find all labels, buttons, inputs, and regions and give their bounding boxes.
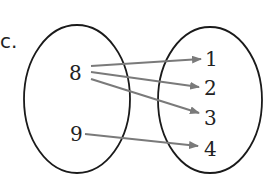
range-element-3: 3 <box>204 106 217 130</box>
arrow-8-to-1 <box>91 59 201 66</box>
part-label: c. <box>0 29 17 53</box>
domain-ellipse <box>24 25 130 173</box>
range-element-4: 4 <box>204 137 217 161</box>
range-element-2: 2 <box>204 76 217 100</box>
domain-element-9: 9 <box>70 122 83 146</box>
arrow-9-to-4 <box>85 134 198 146</box>
mapping-diagram: c. 8 9 1 2 3 4 <box>0 0 274 185</box>
range-element-1: 1 <box>205 47 218 71</box>
domain-element-8: 8 <box>69 61 82 85</box>
